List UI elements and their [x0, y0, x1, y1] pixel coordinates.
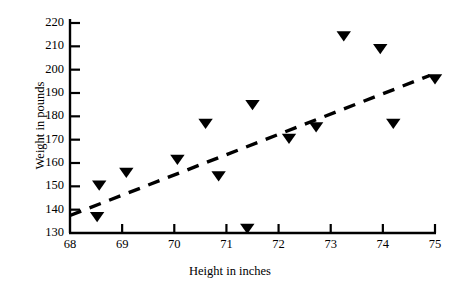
x-tick-label: 75 — [415, 238, 455, 251]
x-tick-label: 69 — [102, 238, 142, 251]
x-axis-title: Height in inches — [0, 264, 460, 279]
data-point-marker — [337, 31, 351, 41]
x-tick-label: 73 — [311, 238, 351, 251]
data-point-marker — [386, 119, 400, 129]
data-point-marker — [198, 119, 212, 129]
plot-canvas — [0, 0, 460, 299]
y-axis-ticks — [70, 23, 80, 210]
data-point-marker — [170, 155, 184, 165]
x-tick-label: 72 — [259, 238, 299, 251]
data-point-marker — [245, 100, 259, 110]
trend-line-segment — [70, 76, 430, 216]
data-point-marker — [428, 74, 442, 84]
x-tick-label: 68 — [50, 238, 90, 251]
x-axis-ticks — [122, 224, 435, 233]
data-point-markers — [90, 31, 442, 234]
data-point-marker — [90, 212, 104, 222]
x-tick-label: 71 — [206, 238, 246, 251]
data-point-marker — [282, 134, 296, 144]
scatter-plot-figure: 130140150160170180190200210220 686970717… — [0, 0, 460, 299]
data-point-marker — [373, 44, 387, 54]
data-point-marker — [309, 122, 323, 132]
y-tick-label: 130 — [24, 226, 64, 239]
data-point-marker — [92, 180, 106, 190]
data-point-marker — [119, 168, 133, 178]
data-point-marker — [211, 171, 225, 181]
y-tick-label: 220 — [24, 16, 64, 29]
y-axis-title: Weight in pounds — [33, 46, 48, 206]
x-tick-label: 74 — [363, 238, 403, 251]
x-tick-label: 70 — [154, 238, 194, 251]
trend-line — [70, 76, 430, 216]
